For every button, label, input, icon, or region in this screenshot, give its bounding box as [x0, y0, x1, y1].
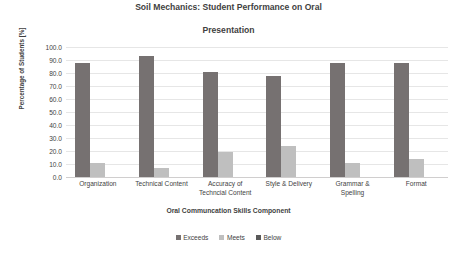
chart-container: Soil Mechanics: Student Performance on O…	[0, 0, 457, 265]
legend-item[interactable]: Meets	[219, 234, 244, 241]
chart-title: Soil Mechanics: Student Performance on O…	[0, 3, 457, 34]
y-axis-tick-label: 80.0	[49, 70, 62, 77]
chart-legend: ExceedsMeetsBelow	[0, 234, 457, 241]
y-axis-tick-label: 60.0	[49, 96, 62, 103]
bar-exceeds[interactable]	[203, 72, 218, 177]
y-axis-tick-label: 20.0	[49, 148, 62, 155]
bar-exceeds[interactable]	[139, 56, 154, 177]
bar-group	[130, 47, 194, 177]
x-axis-tick-label: Format	[384, 180, 448, 198]
x-axis-tick-label: Accuracy ofTechncial Content	[193, 180, 257, 198]
x-axis-title: Oral Communcation Skills Component	[0, 207, 457, 214]
x-axis-tick-label-line: Style & Delivery	[258, 180, 320, 189]
y-axis-tick-label: 70.0	[49, 83, 62, 90]
x-axis-line	[66, 177, 448, 178]
x-axis-tick-label-line: Spelling	[322, 189, 384, 198]
x-axis-tick-label: Grammar &Spelling	[321, 180, 385, 198]
bar-group	[193, 47, 257, 177]
bar-exceeds[interactable]	[330, 63, 345, 177]
bar-groups	[66, 47, 448, 177]
x-axis-tick-label-line: Technical Content	[131, 180, 193, 189]
chart-title-line-1: Soil Mechanics: Student Performance on O…	[0, 3, 457, 12]
y-axis-tick-label: 40.0	[49, 122, 62, 129]
legend-label: Meets	[227, 234, 245, 241]
x-axis-tick-label: Organization	[66, 180, 130, 198]
bar-exceeds[interactable]	[266, 76, 281, 177]
legend-label: Below	[263, 234, 281, 241]
legend-swatch-icon	[176, 235, 181, 240]
y-axis-tick-label: 100.0	[45, 44, 62, 51]
bar-exceeds[interactable]	[75, 63, 90, 177]
bar-group	[321, 47, 385, 177]
chart-title-line-2: Presentation	[0, 26, 457, 35]
y-axis-tick-label: 30.0	[49, 135, 62, 142]
x-axis-tick-label-line: Accuracy of	[194, 180, 256, 189]
bar-meets[interactable]	[345, 163, 360, 177]
legend-item[interactable]: Exceeds	[176, 234, 209, 241]
y-axis-tick-label: 90.0	[49, 57, 62, 64]
legend-item[interactable]: Below	[256, 234, 281, 241]
bar-meets[interactable]	[281, 146, 296, 177]
bar-group	[384, 47, 448, 177]
bar-group	[257, 47, 321, 177]
y-axis-tick-label: 50.0	[49, 109, 62, 116]
bar-meets[interactable]	[154, 168, 169, 177]
y-axis-tick-label: 0.0	[53, 174, 62, 181]
x-axis-tick-labels: OrganizationTechnical ContentAccuracy of…	[66, 180, 448, 198]
x-axis-tick-label: Technical Content	[130, 180, 194, 198]
x-axis-tick-label-line: Organization	[67, 180, 129, 189]
legend-swatch-icon	[256, 235, 261, 240]
bar-meets[interactable]	[409, 159, 424, 177]
bar-exceeds[interactable]	[394, 63, 409, 177]
bar-meets[interactable]	[90, 163, 105, 177]
bar-meets[interactable]	[218, 152, 233, 177]
y-axis-tick-labels: 100.090.080.070.060.050.040.030.020.010.…	[20, 47, 62, 177]
x-axis-tick-label: Style & Delivery	[257, 180, 321, 198]
legend-label: Exceeds	[183, 234, 208, 241]
legend-swatch-icon	[219, 235, 224, 240]
x-axis-tick-label-line: Techncial Content	[194, 189, 256, 198]
x-axis-tick-label-line: Format	[385, 180, 447, 189]
y-axis-tick-label: 10.0	[49, 161, 62, 168]
bar-group	[66, 47, 130, 177]
x-axis-tick-label-line: Grammar &	[322, 180, 384, 189]
